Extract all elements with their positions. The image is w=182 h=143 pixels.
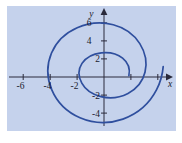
y-tick-label-4: 4 <box>87 36 92 46</box>
x-tick-label-minus2: -2 <box>71 81 79 91</box>
x-tick-label-minus6: -6 <box>17 81 25 91</box>
y-tick-label-minus2: -2 <box>92 91 100 101</box>
y-tick-label-6: 6 <box>87 18 92 28</box>
y-tick-label-2: 2 <box>95 54 100 64</box>
spiral-curve <box>48 23 163 122</box>
y-axis <box>101 8 108 126</box>
spiral-figure: -6 -4 -2 6 4 2 -2 -4 y x <box>0 0 182 143</box>
plot-canvas: -6 -4 -2 6 4 2 -2 -4 y x <box>7 6 176 131</box>
x-axis <box>9 74 173 81</box>
x-tick-label-minus4: -4 <box>44 81 52 91</box>
x-axis-label: x <box>167 79 173 89</box>
y-axis-label: y <box>88 9 94 19</box>
y-tick-label-minus4: -4 <box>92 109 100 119</box>
plot-area: -6 -4 -2 6 4 2 -2 -4 y x <box>7 6 176 131</box>
